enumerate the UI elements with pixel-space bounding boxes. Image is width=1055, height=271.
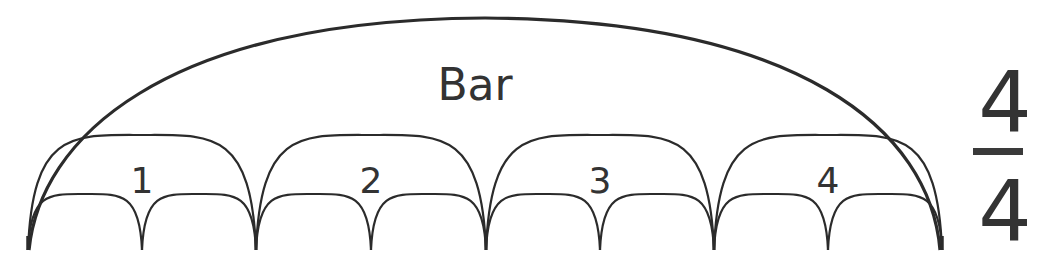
subdivision-arc [828, 194, 942, 250]
subdivision-arc [714, 194, 828, 250]
bar-beat-diagram: 1234 Bar 4 4 [0, 0, 1055, 271]
subdivision-arc [142, 194, 256, 250]
subdivision-arc [256, 194, 371, 250]
subdivision-arc [28, 194, 142, 250]
beat-label: 2 [360, 160, 383, 201]
time-signature-denominator: 4 [978, 162, 1031, 260]
beat-labels: 1234 [131, 160, 840, 201]
time-signature-divider [973, 148, 1023, 155]
subdivision-arc [600, 194, 714, 250]
beat-label: 1 [131, 160, 154, 201]
subdivision-arc [486, 194, 600, 250]
beat-label: 4 [817, 160, 840, 201]
beat-label: 3 [589, 160, 612, 201]
bar-label: Bar [437, 59, 513, 110]
time-signature-numerator: 4 [978, 53, 1031, 151]
diagram-canvas: 1234 Bar 4 4 [0, 0, 1055, 271]
time-signature: 4 4 [973, 53, 1032, 260]
subdivision-arc [371, 194, 486, 250]
